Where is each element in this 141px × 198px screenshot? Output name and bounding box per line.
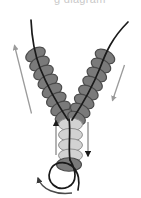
center-bead-column xyxy=(59,118,83,162)
thread-center-spine xyxy=(69,119,70,160)
outer-right-arrow xyxy=(113,65,125,101)
diagram-canvas: g diagram xyxy=(0,0,141,198)
bead-stringing-diagram xyxy=(0,0,141,198)
